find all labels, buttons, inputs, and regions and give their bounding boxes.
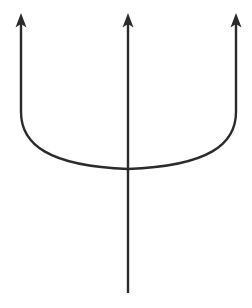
trident-figure	[0, 0, 252, 308]
trident-svg	[0, 0, 252, 308]
figure-background	[0, 0, 252, 308]
